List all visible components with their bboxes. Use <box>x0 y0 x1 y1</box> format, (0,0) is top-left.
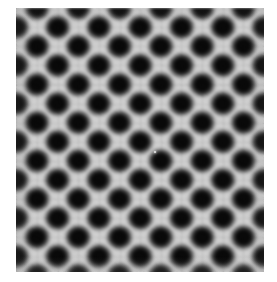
pattern-plate <box>16 8 264 272</box>
image-canvas <box>0 0 277 282</box>
film-grain-overlay <box>16 8 264 272</box>
